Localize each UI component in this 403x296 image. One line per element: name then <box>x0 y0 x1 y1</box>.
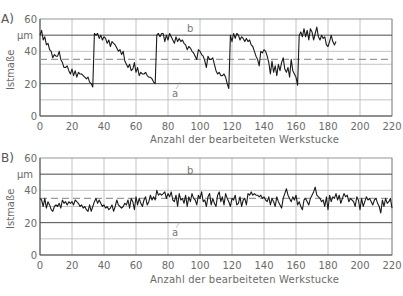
series-line-a <box>40 27 336 88</box>
x-tick-label: 160 <box>286 121 305 132</box>
y-tick-label: 40 <box>24 46 37 57</box>
x-tick-label: 60 <box>130 260 143 271</box>
chart-panel-b: 020406080100120140160180200220 0204060 B… <box>1 151 402 285</box>
plot-frame <box>40 19 392 116</box>
x-tick-label: 180 <box>318 260 337 271</box>
panel-label-b: B) <box>1 151 14 165</box>
x-tick-label: 40 <box>98 260 111 271</box>
y-unit-b: µm <box>17 169 33 180</box>
x-tick-label: 200 <box>350 121 369 132</box>
x-tick-label: 200 <box>350 260 369 271</box>
y-tick-label: 20 <box>24 218 37 229</box>
series-line-b <box>40 187 392 213</box>
x-tick-label: 40 <box>98 121 111 132</box>
y-axis-label-a: Istmaße <box>5 50 16 90</box>
x-tick-labels-b: 020406080100120140160180200220 <box>37 260 402 271</box>
panel-label-a: A) <box>1 12 14 26</box>
x-axis-label-a: Anzahl der bearbeiteten Werkstucke <box>150 134 339 145</box>
y-tick-label: 0 <box>31 250 37 261</box>
x-tick-label: 220 <box>382 260 401 271</box>
x-tick-label: 20 <box>66 121 79 132</box>
y-tick-label: 40 <box>24 185 37 196</box>
x-tick-label: 160 <box>286 260 305 271</box>
y-tick-label: 20 <box>24 79 37 90</box>
y-tick-label: 0 <box>31 111 37 122</box>
x-tick-label: 0 <box>37 121 43 132</box>
y-axis-label-b: Istmaße <box>5 189 16 229</box>
x-tick-label: 140 <box>254 121 273 132</box>
chart-figure: 020406080100120140160180200220 0204060 A… <box>0 0 403 296</box>
annotation-a-b: a <box>172 227 178 238</box>
y-tick-label: 60 <box>24 153 37 164</box>
x-tick-label: 80 <box>162 121 175 132</box>
x-tick-label: 80 <box>162 260 175 271</box>
y-unit-a: µm <box>17 30 33 41</box>
x-tick-label: 140 <box>254 260 273 271</box>
x-tick-label: 220 <box>382 121 401 132</box>
x-tick-label: 120 <box>222 260 241 271</box>
grid-a <box>40 19 392 116</box>
annotation-a-a: a <box>172 88 178 99</box>
x-tick-label: 120 <box>222 121 241 132</box>
annotation-b-a: b <box>187 23 193 34</box>
x-tick-label: 20 <box>66 260 79 271</box>
x-tick-label: 100 <box>190 260 209 271</box>
x-tick-label: 180 <box>318 121 337 132</box>
chart-panel-a: 020406080100120140160180200220 0204060 A… <box>1 12 402 145</box>
reference-lines-b <box>40 174 392 223</box>
y-tick-label: 60 <box>24 14 37 25</box>
x-tick-label: 100 <box>190 121 209 132</box>
x-tick-labels-a: 020406080100120140160180200220 <box>37 121 402 132</box>
x-tick-label: 60 <box>130 121 143 132</box>
x-tick-label: 0 <box>37 260 43 271</box>
x-axis-label-b: Anzahl der bearbeiteten Werkstucke <box>150 274 339 285</box>
annotation-b-b: b <box>187 165 193 176</box>
